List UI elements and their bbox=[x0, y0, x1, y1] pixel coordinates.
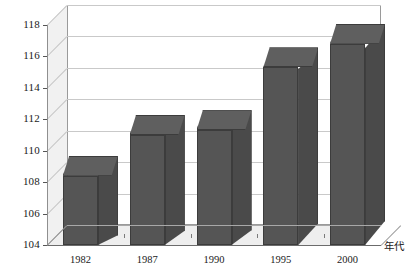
x-axis-tick-label: 1995 bbox=[251, 254, 311, 265]
x-axis-tick-mark bbox=[191, 234, 192, 238]
y-axis-tick-label: 108 bbox=[0, 176, 40, 187]
x-axis-title: 年代 bbox=[384, 241, 404, 252]
bar bbox=[63, 156, 98, 245]
bar-top-face bbox=[263, 47, 318, 67]
y-axis-tick-label: 116 bbox=[0, 50, 40, 61]
left-wall-edge bbox=[47, 25, 48, 245]
x-axis-tick-mark bbox=[124, 234, 125, 238]
x-axis-tick-label: 1982 bbox=[50, 254, 110, 265]
bar-front-face bbox=[63, 176, 98, 245]
y-axis-tick-label: 112 bbox=[0, 113, 40, 124]
x-axis-tick-mark bbox=[324, 234, 325, 238]
bar-top-face bbox=[197, 110, 252, 130]
bar bbox=[330, 24, 365, 245]
bar-front-face bbox=[330, 44, 365, 245]
x-axis-tick-label: 2000 bbox=[318, 254, 378, 265]
bar bbox=[263, 47, 298, 245]
bar-top-face bbox=[130, 115, 185, 135]
y-axis-tick-label: 104 bbox=[0, 239, 40, 250]
x-axis-back-line bbox=[67, 225, 381, 226]
y-axis-tick-label: 114 bbox=[0, 82, 40, 93]
bar-front-face bbox=[130, 135, 165, 245]
x-axis-tick-label: 1987 bbox=[117, 254, 177, 265]
bar-front-face bbox=[197, 130, 232, 245]
y-axis-tick-label: 118 bbox=[0, 19, 40, 30]
y-axis-tick-label: 106 bbox=[0, 208, 40, 219]
gridline bbox=[67, 5, 381, 6]
bar-top-face bbox=[63, 156, 118, 176]
bar-top-face bbox=[330, 24, 385, 44]
bar-side-face bbox=[298, 47, 318, 245]
bar-chart: 104106108110112114116118 198219871990199… bbox=[0, 0, 417, 279]
x-axis-line bbox=[47, 245, 381, 246]
x-axis-tick-label: 1990 bbox=[184, 254, 244, 265]
x-axis-tick-mark bbox=[257, 234, 258, 238]
bar-front-face bbox=[263, 67, 298, 245]
y-axis-tick-label: 110 bbox=[0, 145, 40, 156]
bar-side-face bbox=[365, 24, 385, 245]
